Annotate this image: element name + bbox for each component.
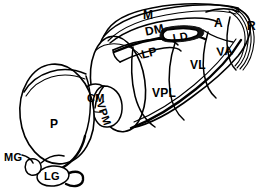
label-dm: DM xyxy=(144,22,165,38)
label-mg: MG xyxy=(4,152,22,163)
label-vl: VL xyxy=(190,59,206,71)
label-r: R xyxy=(247,20,256,32)
label-va: VA xyxy=(216,44,234,58)
label-m: M xyxy=(143,9,153,21)
label-cm: CM xyxy=(87,93,105,104)
thalamus-diagram-figure: M DM LD A R VA VL LP VPL VPM CM P MG LG xyxy=(0,0,259,193)
label-lp: LP xyxy=(140,45,158,60)
pulvinar-group xyxy=(15,60,99,168)
label-lg: LG xyxy=(44,171,60,182)
label-vpl: VPL xyxy=(152,87,176,99)
mg-lobe xyxy=(25,159,41,175)
label-a: A xyxy=(214,17,223,29)
label-p: P xyxy=(50,118,58,130)
